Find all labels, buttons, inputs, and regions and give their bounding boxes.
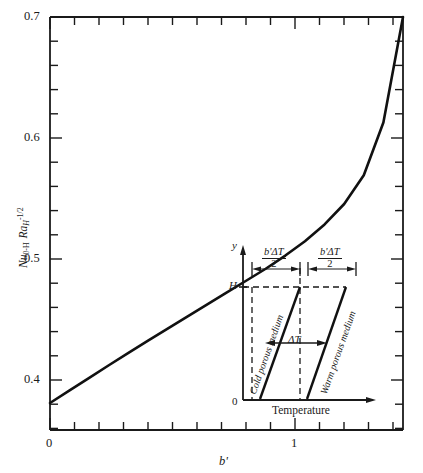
- inset-dim-left-arrowhead-start: [252, 266, 261, 271]
- y-axis-nu-symbol: Nu: [17, 255, 29, 268]
- inset-dim-right-arrowhead-start: [308, 266, 317, 271]
- y-axis-ticks: [50, 17, 62, 428]
- inset-dimension-label-right: b'ΔT 2: [318, 247, 342, 269]
- y-tick-label-0-4: 0.4: [24, 373, 40, 386]
- y-tick-label-0-6: 0.6: [24, 131, 40, 144]
- y-axis-title: Nu0-HRaH-1/2: [18, 207, 30, 268]
- inset-dim-right-denominator: 2: [318, 259, 342, 270]
- data-curve: [50, 17, 403, 403]
- inset-dim-right-numerator: b'ΔT: [318, 247, 342, 259]
- y-axis-nu-subscript: 0-H: [22, 242, 31, 254]
- inset-dim-left-arrowhead-end: [291, 266, 300, 271]
- figure-container: 0.7 0.6 0.5 0.4 0 1 b' Nu0-HRaH-1/2 y H …: [0, 0, 423, 473]
- inset-h-label: H: [229, 280, 237, 291]
- inset-dim-left-numerator: b'ΔT: [262, 247, 286, 259]
- x-tick-label-0: 0: [46, 437, 52, 450]
- inset-dim-left-denominator: 2: [262, 259, 286, 270]
- inset-y-axis-label: y: [232, 240, 237, 251]
- y-axis-ra-symbol: Ra: [17, 226, 29, 239]
- inset-delta-t-label: ΔT: [288, 334, 301, 345]
- y-tick-label-0-7: 0.7: [24, 10, 40, 23]
- y-axis-ra-superscript: -1/2: [16, 207, 25, 220]
- inset-dim-right-arrowhead-end: [347, 266, 356, 271]
- inset-y-axis-arrowhead: [240, 245, 246, 255]
- top-axis-ticks: [50, 17, 393, 29]
- x-tick-label-1: 1: [291, 437, 297, 450]
- inset-x-axis-arrowhead: [366, 397, 376, 403]
- inset-x-axis-label: Temperature: [272, 405, 330, 417]
- plot-canvas: [0, 0, 423, 473]
- inset-dimension-label-left: b'ΔT 2: [262, 247, 286, 269]
- inset-origin-label: 0: [232, 396, 238, 407]
- y-axis-ra-subscript: H: [22, 220, 31, 226]
- x-axis-title: b': [219, 455, 228, 468]
- x-axis-ticks: [50, 418, 393, 430]
